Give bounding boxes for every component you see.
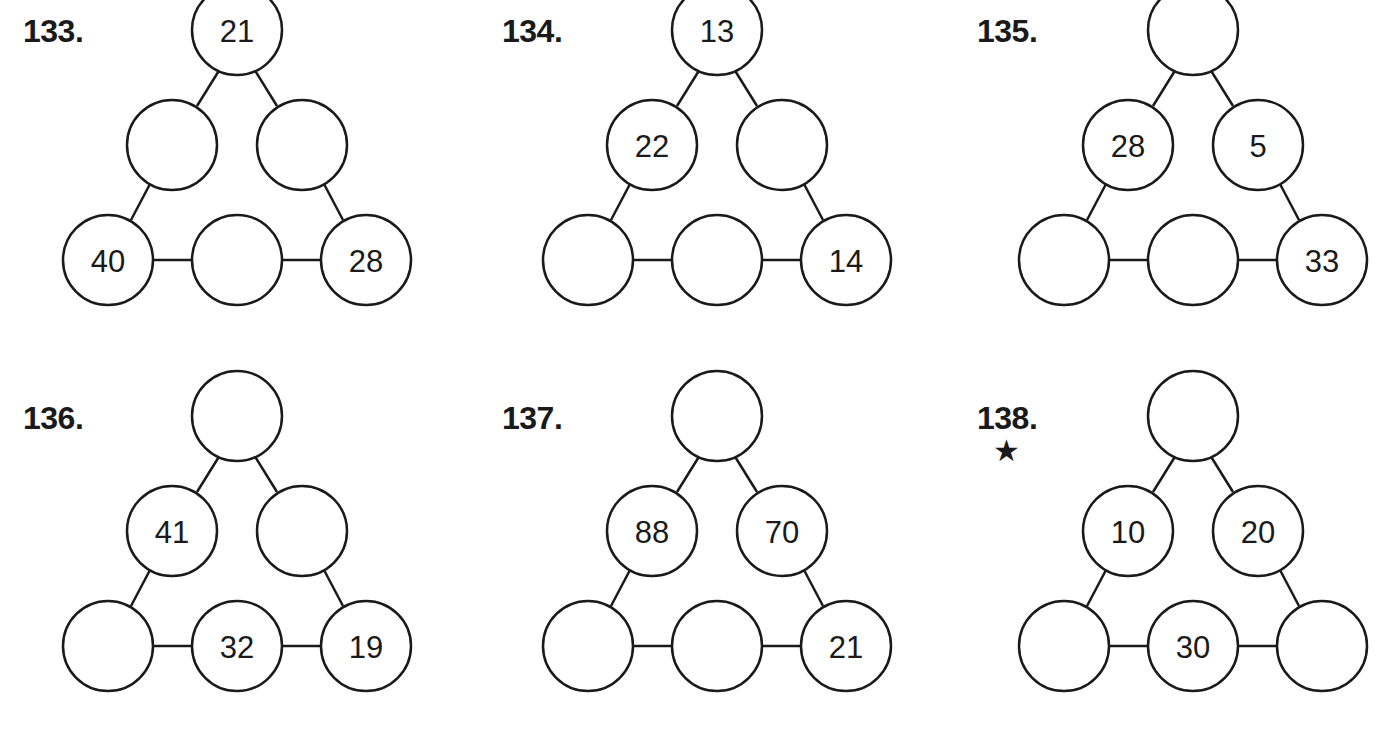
- triangle-puzzle-136: 136. 41: [0, 386, 460, 726]
- triangle-puzzle-134: 134. 13 22: [480, 0, 940, 340]
- value-bottom-right: 28: [349, 244, 383, 279]
- value-bottom-right: 19: [349, 630, 383, 665]
- circle-mid-right[interactable]: [257, 100, 347, 190]
- connector-line: [254, 455, 277, 492]
- connector-line: [324, 184, 343, 220]
- connector-line: [1087, 570, 1106, 606]
- circle-top[interactable]: [1148, 371, 1238, 461]
- connector-line: [804, 570, 823, 606]
- circle-bottom-left[interactable]: [1019, 215, 1109, 305]
- connector-line: [1153, 455, 1176, 492]
- connector-line: [1280, 184, 1299, 220]
- value-top: 21: [220, 14, 254, 49]
- circle-bottom-left[interactable]: [63, 601, 153, 691]
- value-bottom-left: 40: [91, 244, 125, 279]
- value-bottom-right: 33: [1305, 244, 1339, 279]
- circle-bottom-left[interactable]: [1019, 601, 1109, 691]
- value-mid-left: 88: [635, 515, 669, 550]
- triangle-puzzle-137: 137. 88 70: [480, 386, 940, 726]
- connector-line: [734, 69, 757, 106]
- value-mid-left: 10: [1111, 515, 1145, 550]
- circle-bottom-mid[interactable]: [672, 215, 762, 305]
- connector-line: [1210, 455, 1233, 492]
- connector-line: [611, 570, 630, 606]
- circle-bottom-mid[interactable]: [192, 215, 282, 305]
- triangle-diagram: 88 70 21: [480, 386, 940, 726]
- circle-bottom-mid[interactable]: [672, 601, 762, 691]
- circle-top[interactable]: [192, 371, 282, 461]
- triangle-diagram: 21 40 28: [0, 0, 460, 340]
- circle-bottom-right[interactable]: [1277, 601, 1367, 691]
- value-mid-left: 22: [635, 129, 669, 164]
- circle-mid-right[interactable]: [257, 486, 347, 576]
- connector-line: [324, 570, 343, 606]
- connector-line: [197, 455, 220, 492]
- connector-line: [611, 184, 630, 220]
- connector-line: [677, 455, 700, 492]
- connector-line: [1087, 184, 1106, 220]
- value-bottom-right: 21: [829, 630, 863, 665]
- circle-bottom-mid[interactable]: [1148, 215, 1238, 305]
- connector-line: [677, 69, 700, 106]
- value-mid-right: 5: [1249, 129, 1266, 164]
- value-mid-left: 41: [155, 515, 189, 550]
- triangle-puzzle-133: 133. 21: [0, 0, 460, 340]
- triangle-diagram: 13 22 14: [480, 0, 940, 340]
- connector-line: [254, 69, 277, 106]
- connector-line: [804, 184, 823, 220]
- triangle-diagram: 28 5 33: [956, 0, 1397, 340]
- triangle-puzzle-138: 138. ★ 10 20: [956, 386, 1397, 726]
- connector-line: [131, 570, 150, 606]
- value-bottom-mid: 32: [220, 630, 254, 665]
- value-mid-right: 70: [765, 515, 799, 550]
- connector-line: [1280, 570, 1299, 606]
- connector-line: [131, 184, 150, 220]
- circle-bottom-left[interactable]: [543, 601, 633, 691]
- value-top: 13: [700, 14, 734, 49]
- circle-bottom-left[interactable]: [543, 215, 633, 305]
- value-bottom-mid: 30: [1176, 630, 1210, 665]
- value-bottom-right: 14: [829, 244, 863, 279]
- value-mid-right: 20: [1241, 515, 1275, 550]
- circle-top[interactable]: [1148, 0, 1238, 75]
- connector-line: [197, 69, 220, 106]
- connector-line: [1210, 69, 1233, 106]
- circle-top[interactable]: [672, 371, 762, 461]
- triangle-puzzle-135: 135. 28 5: [956, 0, 1397, 340]
- connector-line: [734, 455, 757, 492]
- connector-line: [1153, 69, 1176, 106]
- value-mid-left: 28: [1111, 129, 1145, 164]
- circle-mid-left[interactable]: [127, 100, 217, 190]
- triangle-diagram: 41 32 19: [0, 386, 460, 726]
- triangle-diagram: 10 20 30: [956, 386, 1397, 726]
- circle-mid-right[interactable]: [737, 100, 827, 190]
